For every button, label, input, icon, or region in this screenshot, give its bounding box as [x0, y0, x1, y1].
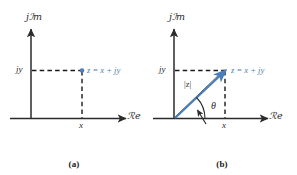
point-label: z = x + jy	[231, 66, 264, 75]
panel-b-diagram	[148, 0, 296, 175]
real-axis-label: ℛe	[127, 111, 141, 122]
point-label: z = x + jy	[87, 66, 120, 75]
real-tick-label: x	[79, 121, 83, 130]
panel-a-diagram	[0, 0, 148, 175]
imaginary-axis-label: jℐm	[169, 12, 185, 23]
panel-a-caption: (a)	[0, 159, 148, 169]
imaginary-tick-label: jy	[16, 65, 23, 74]
magnitude-label: |z|	[184, 80, 191, 89]
real-axis-label: ℛe	[269, 111, 283, 122]
vector-arrow	[175, 70, 226, 118]
angle-label: θ	[211, 101, 216, 111]
imaginary-tick-label: jy	[159, 65, 166, 74]
point-marker	[80, 68, 85, 73]
complex-plane-figure: jℐm ℛe jy x z = x + jy (a)	[0, 0, 297, 175]
imaginary-axis-label: jℐm	[26, 12, 42, 23]
panel-b: jℐm ℛe jy x z = x + jy |z| θ (b)	[148, 0, 296, 175]
real-tick-label: x	[222, 121, 226, 130]
panel-b-caption: (b)	[148, 159, 296, 169]
panel-a: jℐm ℛe jy x z = x + jy (a)	[0, 0, 148, 175]
